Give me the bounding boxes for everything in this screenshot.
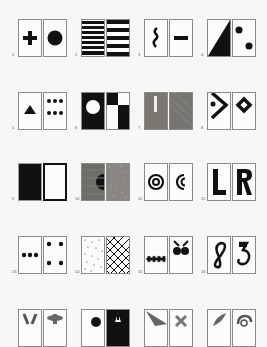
- white-shape-icon: [107, 310, 129, 346]
- card-right: [106, 19, 130, 57]
- circle-icon: [44, 20, 66, 56]
- pair-number: 16: [201, 270, 205, 274]
- card-pair: 15: [144, 236, 194, 274]
- stripes-icon: [82, 20, 104, 56]
- half-circle-icon: [82, 164, 104, 200]
- grey-leaf-icon: [208, 310, 230, 346]
- dots-texture-icon: [82, 237, 104, 273]
- card-right: [43, 309, 67, 347]
- card-left: [144, 19, 168, 57]
- card-right: [232, 92, 256, 130]
- card-right: [106, 236, 130, 274]
- bow-shape-icon: [44, 310, 66, 346]
- card-pair: [81, 309, 131, 347]
- pair-number: 8: [201, 126, 203, 130]
- card-left: [144, 163, 168, 201]
- crescent-icon: [170, 164, 192, 200]
- grey-swirl-icon: [233, 310, 255, 346]
- card-pair: [144, 309, 194, 347]
- card-left: [81, 309, 105, 347]
- pair-number: 1: [12, 53, 14, 57]
- insects-icon: [145, 237, 167, 273]
- card-right: [106, 163, 130, 201]
- card-left: [81, 92, 105, 130]
- three-dots-icon: [19, 237, 41, 273]
- card-right: [232, 19, 256, 57]
- card-right: [169, 92, 193, 130]
- card-pair: 10: [81, 163, 131, 201]
- white-bar-icon: [145, 93, 167, 129]
- pair-number: 13: [12, 270, 16, 274]
- crosshatch-icon: [107, 237, 129, 273]
- card-right: [169, 19, 193, 57]
- bar-icon: [170, 20, 192, 56]
- black-fill-icon: [19, 164, 41, 200]
- card-left: [81, 163, 105, 201]
- card-pair: 14: [81, 236, 131, 274]
- card-pair: 16: [207, 236, 257, 274]
- curl-icon: [233, 237, 255, 273]
- card-right: [232, 163, 256, 201]
- pair-number: 2: [75, 53, 77, 57]
- texture-icon: [170, 93, 192, 129]
- card-pair: 13: [18, 236, 68, 274]
- chevron-dot-icon: [208, 93, 230, 129]
- butterfly-icon: [170, 237, 192, 273]
- circle-on-black-icon: [82, 93, 104, 129]
- card-left: [207, 19, 231, 57]
- card-right: [43, 19, 67, 57]
- card-left: [207, 92, 231, 130]
- pair-number: 10: [75, 197, 79, 201]
- card-left: [81, 236, 105, 274]
- white-border-icon: [45, 165, 67, 201]
- letter-r-icon: [233, 164, 255, 200]
- six-dots-icon: [44, 93, 66, 129]
- triangle-icon: [19, 93, 41, 129]
- card-left: [207, 309, 231, 347]
- card-right: [232, 236, 256, 274]
- figure-eight-icon: [208, 237, 230, 273]
- card-right: [43, 163, 67, 201]
- card-pair: [18, 309, 68, 347]
- card-right: [43, 236, 67, 274]
- card-pair: 3: [144, 19, 194, 57]
- v-shape-icon: [19, 310, 41, 346]
- card-left: [144, 309, 168, 347]
- card-right: [106, 309, 130, 347]
- concentric-circles-icon: [145, 164, 167, 200]
- card-right: [43, 92, 67, 130]
- card-left: [81, 19, 105, 57]
- two-dots-icon: [233, 20, 255, 56]
- card-left: [207, 236, 231, 274]
- card-right: [169, 309, 193, 347]
- diamond-icon: [233, 93, 255, 129]
- grey-x-icon: [170, 310, 192, 346]
- pair-number: 12: [201, 197, 205, 201]
- card-pair: [207, 309, 257, 347]
- card-pair: 12: [207, 163, 257, 201]
- pair-number: 11: [138, 197, 142, 201]
- card-left: [18, 309, 42, 347]
- card-left: [18, 19, 42, 57]
- noise-icon: [107, 164, 129, 200]
- pair-number: 9: [12, 197, 14, 201]
- card-right: [232, 309, 256, 347]
- card-left: [18, 236, 42, 274]
- pair-number: 6: [75, 126, 77, 130]
- wave-icon: [145, 20, 167, 56]
- wide-stripes-icon: [107, 20, 129, 56]
- card-pair: 6: [81, 92, 131, 130]
- pair-number: 14: [75, 270, 79, 274]
- grey-triangle-icon: [145, 310, 167, 346]
- card-pair: 7: [144, 92, 194, 130]
- card-left: [144, 236, 168, 274]
- card-left: [18, 163, 42, 201]
- pair-number: 7: [138, 126, 140, 130]
- pair-number: 3: [138, 53, 140, 57]
- card-pair: 8: [207, 92, 257, 130]
- pair-number: 4: [201, 53, 203, 57]
- card-right: [169, 163, 193, 201]
- black-blob-icon: [82, 310, 104, 346]
- card-pair: 11: [144, 163, 194, 201]
- checkerboard-icon: [107, 93, 129, 129]
